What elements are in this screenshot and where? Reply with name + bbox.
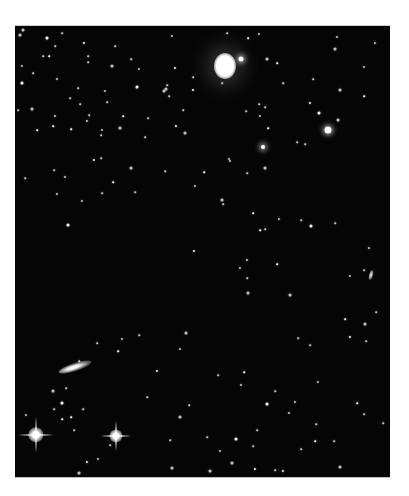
star	[121, 338, 123, 340]
star	[79, 103, 81, 105]
star	[252, 445, 254, 447]
star	[67, 224, 70, 227]
star	[36, 129, 38, 131]
star	[294, 401, 296, 403]
star	[100, 134, 102, 136]
star	[254, 468, 256, 470]
star	[231, 462, 234, 465]
star	[203, 171, 205, 173]
star	[165, 88, 168, 91]
star	[65, 387, 67, 389]
star	[264, 106, 266, 108]
star	[337, 119, 340, 122]
star	[246, 259, 248, 261]
star	[288, 412, 290, 414]
star	[318, 112, 321, 115]
star	[136, 86, 139, 89]
star	[86, 461, 88, 463]
star	[83, 42, 85, 44]
elliptical-galaxy	[214, 53, 236, 79]
star	[247, 37, 249, 39]
star	[101, 129, 103, 131]
star	[363, 413, 365, 415]
star	[179, 348, 181, 350]
star	[363, 269, 365, 271]
star	[56, 193, 58, 195]
star	[54, 45, 56, 47]
star	[264, 167, 267, 170]
star	[274, 390, 276, 392]
star	[61, 418, 63, 420]
star	[314, 440, 316, 442]
star	[101, 192, 103, 194]
star	[282, 82, 284, 84]
star	[174, 67, 176, 69]
star	[309, 344, 311, 346]
star	[192, 76, 194, 78]
star	[222, 203, 224, 205]
star	[87, 61, 89, 63]
star	[61, 402, 64, 405]
star	[219, 450, 221, 452]
star	[69, 97, 71, 99]
star	[289, 294, 292, 297]
star	[309, 102, 311, 104]
star	[32, 72, 34, 74]
star	[356, 402, 358, 404]
star	[61, 32, 63, 34]
star	[315, 423, 317, 425]
star	[282, 470, 284, 472]
star	[344, 318, 346, 320]
star	[122, 115, 124, 117]
star	[193, 250, 195, 252]
star	[21, 82, 24, 85]
star	[138, 68, 140, 70]
star	[73, 429, 75, 431]
star	[194, 185, 196, 187]
star	[276, 263, 278, 265]
star	[182, 109, 184, 111]
star	[53, 408, 55, 410]
star	[138, 334, 140, 336]
star	[246, 277, 248, 279]
star	[56, 78, 58, 80]
star	[64, 176, 66, 178]
star	[17, 109, 19, 111]
star	[97, 458, 99, 460]
astronomical-photo	[15, 25, 390, 478]
star	[166, 84, 168, 86]
star	[334, 222, 336, 224]
star	[243, 371, 245, 373]
star	[252, 212, 254, 214]
star	[339, 466, 342, 469]
star	[229, 160, 231, 162]
star	[19, 34, 22, 37]
star	[144, 136, 146, 138]
star	[312, 78, 314, 80]
star	[70, 128, 72, 130]
star	[82, 408, 84, 410]
star	[300, 448, 302, 450]
star	[375, 311, 377, 313]
star	[70, 416, 72, 418]
star	[363, 95, 365, 97]
star	[339, 89, 342, 92]
star	[259, 115, 261, 117]
star	[274, 469, 276, 471]
star	[264, 228, 266, 230]
star	[221, 82, 223, 84]
star	[169, 439, 171, 441]
star	[226, 32, 228, 34]
star	[88, 114, 90, 116]
edge-on-galaxy	[58, 358, 93, 376]
star	[81, 200, 83, 202]
star	[78, 472, 81, 475]
star	[46, 37, 49, 40]
star	[156, 370, 158, 372]
star	[52, 390, 55, 393]
star	[117, 350, 119, 352]
star	[217, 374, 219, 376]
star	[21, 65, 23, 67]
star	[52, 125, 54, 127]
star	[106, 101, 108, 103]
